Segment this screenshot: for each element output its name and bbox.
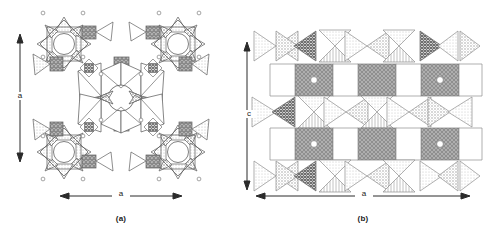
tetrahedra-row-bottom bbox=[254, 160, 480, 192]
panel-a-vertical-axis-label: a bbox=[11, 92, 29, 100]
panel-b-drawing bbox=[242, 0, 484, 237]
panel-b-vertical-axis-label: c bbox=[242, 110, 256, 118]
panel-b-horizontal-axis-label: a bbox=[355, 190, 373, 198]
panel-a-drawing bbox=[0, 0, 242, 237]
tetrahedra-row-middle bbox=[252, 96, 472, 128]
tetrahedra-row-top bbox=[254, 30, 480, 62]
panel-b-caption: (b) bbox=[343, 214, 383, 223]
panel-a-caption: (a) bbox=[101, 214, 141, 223]
panel-b: c a (b) bbox=[242, 0, 484, 237]
panel-a: a a (a) bbox=[0, 0, 242, 237]
hatched-block-row-upper bbox=[270, 64, 482, 96]
figure-container: a a (a) bbox=[0, 0, 484, 237]
hatched-block-row-lower bbox=[270, 128, 482, 160]
panel-a-horizontal-axis-label: a bbox=[112, 190, 130, 198]
